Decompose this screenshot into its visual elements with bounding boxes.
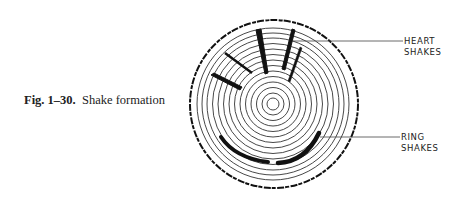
figure-number: Fig. 1–30.: [24, 93, 76, 107]
bark-outline: [190, 20, 358, 188]
heart-label-line1: HEART: [404, 36, 442, 47]
growth-rings: [197, 28, 349, 180]
ring-label-line1: RING: [401, 132, 439, 143]
ring-label-line2: SHAKES: [401, 143, 439, 154]
heart-shakes-label: HEART SHAKES: [404, 36, 442, 57]
figure-title: Shake formation: [82, 93, 165, 107]
figure-caption: Fig. 1–30. Shake formation: [24, 93, 165, 108]
ring-shakes-label: RING SHAKES: [401, 132, 439, 153]
heart-label-line2: SHAKES: [404, 47, 442, 58]
shake-formation-figure: Fig. 1–30. Shake formation HEART SHAKES …: [0, 0, 462, 206]
